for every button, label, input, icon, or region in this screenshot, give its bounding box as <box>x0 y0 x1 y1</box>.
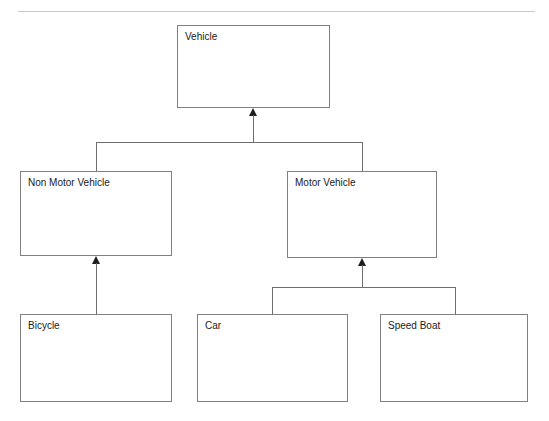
edge-segment-nonmotor-drop <box>96 142 97 172</box>
class-box-motor-vehicle[interactable]: Motor Vehicle <box>287 171 437 258</box>
class-box-car[interactable]: Car <box>197 314 348 402</box>
diagram-canvas: Vehicle Non Motor Vehicle Motor Vehicle … <box>0 0 549 421</box>
edge-segment-bicycle-stem <box>96 263 97 315</box>
edge-segment-vehicle-stem <box>253 115 254 143</box>
class-box-non-motor-vehicle[interactable]: Non Motor Vehicle <box>20 171 172 256</box>
diagram-page: Vehicle Non Motor Vehicle Motor Vehicle … <box>0 0 549 421</box>
edge-segment-car-drop <box>272 287 273 315</box>
class-label-non-motor-vehicle: Non Motor Vehicle <box>28 177 110 189</box>
edge-segment-speedboat-drop <box>455 287 456 315</box>
class-box-speed-boat[interactable]: Speed Boat <box>380 314 528 402</box>
class-box-vehicle[interactable]: Vehicle <box>177 25 330 108</box>
class-label-speed-boat: Speed Boat <box>388 320 440 332</box>
class-label-bicycle: Bicycle <box>28 320 60 332</box>
class-label-car: Car <box>205 320 221 332</box>
edge-segment-motor-drop <box>362 142 363 172</box>
class-label-motor-vehicle: Motor Vehicle <box>295 177 356 189</box>
edge-segment-motor-children-stem <box>362 265 363 288</box>
edge-segment-motor-children-bus <box>272 287 456 288</box>
edge-segment-vehicle-bus <box>96 142 363 143</box>
class-box-bicycle[interactable]: Bicycle <box>20 314 172 402</box>
class-label-vehicle: Vehicle <box>185 31 217 43</box>
